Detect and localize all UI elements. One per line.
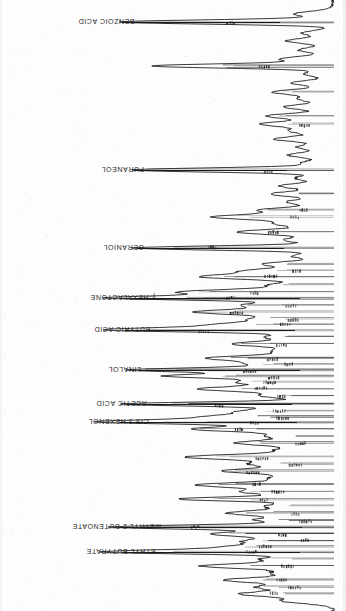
retention-time-numeral [274,381,276,384]
retention-time-numeral [297,319,299,322]
retention-time-numeral [301,539,302,542]
retention-time-numeral [230,312,232,315]
retention-time-numeral [304,209,306,212]
retention-time-numeral [288,564,290,568]
retention-time-numeral [268,377,270,379]
retention-time-numeral [299,124,300,127]
retention-time-numeral [277,358,278,362]
retention-time-numeral [292,513,293,516]
retention-time-numeral [259,482,261,485]
retention-time-numeral [285,579,287,581]
retention-time-numeral [262,457,263,460]
retention-time-numeral [259,546,260,549]
retention-time-numeral [271,275,273,277]
retention-time-numeral [272,490,273,493]
retention-time-numeral [276,344,278,347]
retention-time-numeral [272,592,273,595]
retention-time-numeral [254,483,256,486]
retention-time-numeral [285,344,286,347]
retention-time-numeral [270,231,272,234]
retention-time-numeral [269,358,271,361]
retention-time-numeral [311,521,312,524]
retention-time-numeral [284,409,285,412]
retention-time-numeral [290,305,291,308]
retention-time-numeral [268,65,269,68]
retention-time-numeral [295,269,296,273]
retention-time-numeral [235,311,237,314]
retention-time-numeral [301,520,302,523]
retention-time-numeral [264,275,265,278]
retention-time-numeral [280,410,281,413]
retention-time-numeral [270,591,271,594]
retention-time-numeral [265,457,266,460]
retention-time-numeral [208,331,209,334]
retention-time-numeral [246,471,248,474]
retention-time-numeral [274,358,276,361]
retention-time-numeral [304,125,305,128]
retention-time-numeral [259,387,261,390]
retention-time-numeral [295,318,297,321]
retention-time-numeral [293,304,294,308]
retention-time-numeral [305,538,307,541]
retention-time-numeral [276,592,278,595]
peak-label: FURANEOL [101,165,144,174]
retention-time-numeral-group [191,21,312,595]
retention-time-numeral [290,586,292,589]
retention-time-numeral [273,376,274,380]
retention-time-numeral [258,471,260,474]
retention-time-numeral [266,380,267,383]
retention-time-numeral [278,491,280,494]
retention-time-numeral [294,463,295,466]
retention-time-numeral [300,587,301,590]
retention-time-numeral [308,519,309,522]
retention-time-numeral [293,565,294,568]
retention-time-numeral [203,331,204,333]
retention-time-numeral [270,381,272,384]
retention-time-numeral [306,124,307,126]
retention-time-numeral [301,464,302,467]
retention-time-numeral [267,498,268,501]
retention-time-numeral [280,323,281,326]
retention-time-numeral [308,124,309,127]
retention-time-numeral [237,428,238,431]
retention-time-numeral [276,416,277,420]
retention-time-numeral [283,579,284,582]
retention-time-numeral [267,382,269,384]
retention-time-numeral [281,490,282,493]
retention-time-numeral [306,208,308,211]
retention-time-numeral [251,471,252,474]
retention-time-numeral [281,344,282,347]
retention-time-numeral [277,410,279,413]
leader-line [127,404,292,405]
leader-line [125,330,295,331]
peak-label: LINALOL [108,365,141,374]
retention-time-numeral [299,270,300,273]
retention-time-numeral [275,592,276,595]
retention-time-numeral [279,344,280,347]
retention-time-numeral [292,587,294,590]
retention-time-numeral [285,417,287,420]
retention-time-numeral [235,428,236,431]
retention-time-numeral [283,534,285,537]
retention-time-numeral [237,311,239,314]
retention-time-numeral [302,443,304,446]
retention-time-numeral [261,66,263,69]
retention-time-numeral [250,291,251,294]
peak-label: ACETIC ACID [96,399,147,408]
retention-time-numeral [272,382,273,385]
retention-time-numeral [283,491,284,494]
retention-time-numeral [255,387,256,390]
retention-time-numeral [295,587,296,590]
retention-time-numeral [263,545,265,548]
retention-time-numeral [303,520,305,523]
retention-time-numeral [258,458,260,461]
retention-time-numeral [282,395,283,398]
retention-time-numeral [263,381,264,384]
retention-time-numeral [240,427,241,430]
retention-time-numeral [274,490,275,493]
retention-time-numeral [304,442,306,445]
peak-label: BUTYRIC ACID [94,325,150,334]
retention-time-numeral [293,216,295,219]
retention-time-numeral [267,275,268,278]
retention-time-numeral [286,305,288,308]
